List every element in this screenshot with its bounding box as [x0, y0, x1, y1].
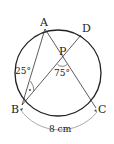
- label-D: D: [82, 22, 91, 35]
- angle-dot-ABD: [29, 89, 31, 91]
- arc-length-label: 8 cm: [49, 124, 72, 134]
- angle-arc-ABD: [31, 81, 35, 91]
- label-P: P: [59, 45, 67, 58]
- arrow-right-icon: [94, 109, 97, 112]
- angle-arc-BPC: [58, 65, 68, 67]
- label-B: B: [11, 103, 19, 116]
- circle-diagram: A D P B C 25° 75° 8 cm: [0, 0, 114, 144]
- label-A: A: [39, 16, 49, 29]
- angle-label-ABD: 25°: [15, 66, 31, 76]
- angle-label-BPC: 75°: [54, 68, 70, 78]
- label-C: C: [98, 103, 106, 116]
